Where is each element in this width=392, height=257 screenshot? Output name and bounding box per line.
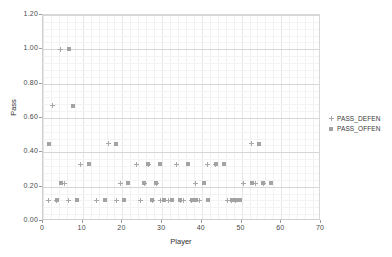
x-tick-label: 10 (70, 224, 94, 231)
legend-item-pass_offen[interactable]: PASS_OFFEN (328, 123, 381, 133)
data-point-pass_offen (126, 181, 130, 185)
data-point-pass_defen (249, 141, 254, 146)
data-point-pass_offen (114, 142, 118, 146)
data-point-pass_defen (102, 219, 107, 220)
data-point-pass_defen (253, 181, 258, 186)
legend-item-pass_defen[interactable]: PASS_DEFEN (328, 113, 381, 123)
data-point-pass_defen (82, 219, 87, 220)
data-point-pass_offen (162, 198, 166, 202)
data-point-pass_defen (170, 219, 175, 220)
x-axis-title: Player (42, 237, 320, 246)
data-point-pass_defen (185, 219, 190, 220)
legend-label: PASS_DEFEN (337, 115, 381, 122)
data-point-pass_defen (78, 162, 83, 167)
data-point-pass_defen (43, 219, 47, 220)
data-point-pass_defen (74, 219, 79, 220)
data-point-pass_defen (174, 162, 179, 167)
data-point-pass_defen (50, 103, 55, 108)
data-point-pass_defen (229, 198, 234, 203)
data-point-pass_defen (213, 162, 218, 167)
x-tick-mark (280, 220, 281, 223)
data-point-pass_offen (150, 198, 154, 202)
x-tick-label: 0 (30, 224, 54, 231)
data-point-pass_defen (130, 219, 135, 220)
legend-label: PASS_OFFEN (337, 125, 381, 132)
data-point-pass_offen (194, 198, 198, 202)
data-point-pass_defen (189, 198, 194, 203)
data-point-pass_defen (154, 181, 159, 186)
data-point-pass_defen (158, 198, 163, 203)
data-point-pass_offen (190, 198, 194, 202)
data-point-pass_defen (178, 198, 183, 203)
x-tick-mark (201, 220, 202, 223)
scatter-chart: Pass 0.000.200.400.600.801.001.20 010203… (0, 0, 392, 257)
data-point-pass_defen (273, 219, 278, 220)
data-point-pass_offen (214, 162, 218, 166)
data-point-pass_defen (221, 219, 226, 220)
data-point-pass_defen (126, 219, 131, 220)
data-point-pass_offen (250, 181, 254, 185)
data-points (43, 15, 319, 219)
data-point-pass_offen (87, 162, 91, 166)
data-point-pass_offen (75, 198, 79, 202)
data-point-pass_defen (237, 219, 242, 220)
data-point-pass_defen (217, 219, 222, 220)
data-point-pass_defen (90, 219, 95, 220)
data-point-pass_defen (197, 198, 202, 203)
data-point-pass_offen (178, 198, 182, 202)
data-point-pass_defen (142, 181, 147, 186)
data-point-pass_offen (230, 198, 234, 202)
data-point-pass_defen (66, 198, 71, 203)
data-point-pass_offen (222, 162, 226, 166)
data-point-pass_offen (234, 198, 238, 202)
data-point-pass_defen (201, 219, 206, 220)
data-point-pass_defen (106, 141, 111, 146)
data-point-pass_defen (58, 47, 63, 52)
data-point-pass_defen (277, 219, 282, 220)
x-tick-mark (121, 220, 122, 223)
data-point-pass_defen (122, 219, 127, 220)
data-point-pass_defen (225, 198, 230, 203)
x-tick-mark (241, 220, 242, 223)
data-point-pass_defen (54, 198, 59, 203)
data-point-pass_offen (55, 198, 59, 202)
square-marker-icon (328, 125, 335, 132)
x-tick-label: 70 (308, 224, 332, 231)
data-point-pass_defen (110, 219, 115, 220)
y-tick-label: 0.80 (4, 79, 38, 86)
data-point-pass_offen (47, 142, 51, 146)
plot-area (42, 14, 320, 220)
data-point-pass_defen (261, 181, 266, 186)
y-tick-label: 0.40 (4, 147, 38, 154)
x-tick-mark (82, 220, 83, 223)
y-tick-label: 0.60 (4, 113, 38, 120)
data-point-pass_defen (46, 198, 51, 203)
data-point-pass_offen (186, 162, 190, 166)
data-point-pass_offen (158, 162, 162, 166)
data-point-pass_offen (154, 181, 158, 185)
data-point-pass_offen (269, 181, 273, 185)
data-point-pass_offen (103, 198, 107, 202)
data-point-pass_defen (193, 181, 198, 186)
data-point-pass_offen (67, 47, 71, 51)
data-point-pass_offen (59, 181, 63, 185)
x-tick-mark (161, 220, 162, 223)
data-point-pass_defen (181, 198, 186, 203)
data-point-pass_defen (233, 198, 238, 203)
data-point-pass_offen (202, 181, 206, 185)
x-tick-label: 30 (149, 224, 173, 231)
data-point-pass_defen (118, 181, 123, 186)
y-tick-label: 0.20 (4, 182, 38, 189)
plus-marker-icon (328, 115, 335, 122)
data-point-pass_defen (162, 219, 167, 220)
data-point-pass_offen (142, 181, 146, 185)
data-point-pass_defen (166, 198, 171, 203)
x-tick-label: 20 (109, 224, 133, 231)
data-point-pass_offen (261, 181, 265, 185)
data-point-pass_defen (265, 219, 270, 220)
data-point-pass_defen (205, 162, 210, 167)
chart-legend: PASS_DEFENPASS_OFFEN (328, 113, 381, 133)
y-axis-title: Pass (9, 88, 18, 128)
x-tick-label: 50 (229, 224, 253, 231)
x-tick-label: 40 (189, 224, 213, 231)
